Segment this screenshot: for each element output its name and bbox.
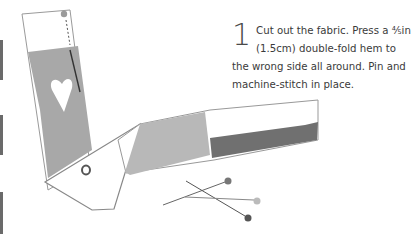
- step-number: 1: [232, 23, 250, 47]
- step-text: Cut out the fabric. Press a ⅘in (1.5cm) …: [232, 25, 411, 90]
- instruction-step: 1 Cut out the fabric. Press a ⅘in (1.5cm…: [232, 22, 412, 94]
